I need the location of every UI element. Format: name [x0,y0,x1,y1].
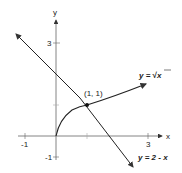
x-axis-label: x [166,132,170,141]
x-tick-label-neg1: -1 [21,140,29,149]
y-axis-label: y [53,8,57,17]
x-tick-label-3: 3 [146,140,151,149]
y-tick-label-neg1: -1 [45,153,53,162]
intersection-label: (1, 1) [84,89,103,98]
intersection-point [85,103,89,107]
graph-canvas: y x -1 3 3 -1 (1, 1) y = √x y = 2 - x [0,0,182,173]
y-tick-label-3: 3 [47,39,52,48]
line-curve-label: y = 2 - x [137,153,168,162]
line-y-2-minus-x-lower [80,98,133,167]
sqrt-curve-label: y = √x [138,71,162,80]
